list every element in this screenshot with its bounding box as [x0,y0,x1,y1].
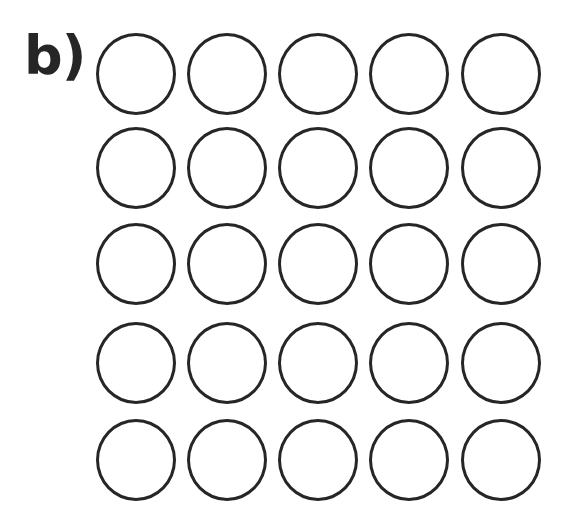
circle-r4-c1 [96,322,176,404]
circle-r1-c1 [96,33,176,115]
circle-r4-c4 [369,322,449,404]
circle-r5-c5 [461,419,541,501]
circle-r1-c2 [187,33,267,115]
figure-label: b) [24,26,85,86]
circle-r4-c3 [278,322,358,404]
circle-r1-c4 [369,33,449,115]
circle-r2-c2 [187,127,267,209]
circle-r3-c2 [187,223,267,305]
circle-r3-c5 [461,223,541,305]
circle-r1-c3 [278,33,358,115]
circle-r2-c1 [96,127,176,209]
circle-r5-c3 [278,419,358,501]
circle-r2-c3 [278,127,358,209]
circle-r5-c1 [96,419,176,501]
circle-r5-c4 [369,419,449,501]
circle-r3-c3 [278,223,358,305]
circle-r3-c4 [369,223,449,305]
circle-r2-c5 [461,127,541,209]
circle-r5-c2 [187,419,267,501]
circle-r2-c4 [369,127,449,209]
circle-r1-c5 [461,33,541,115]
circle-r4-c2 [187,322,267,404]
circle-r3-c1 [96,223,176,305]
circle-r4-c5 [461,322,541,404]
